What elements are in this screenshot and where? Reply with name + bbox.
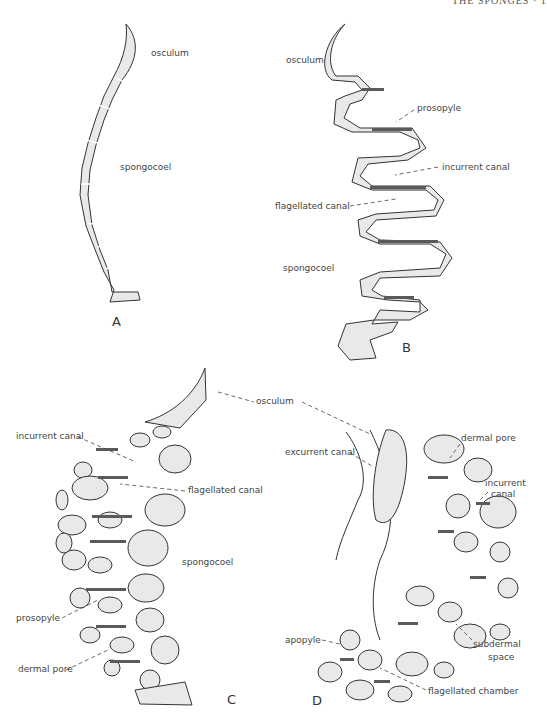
label-incurrent-canal-c: incurrent canal — [16, 431, 84, 441]
panel-a: osculum spongocoel A — [80, 24, 189, 329]
label-spongocoel-b: spongocoel — [283, 263, 334, 273]
label-subdermal-space-d-line2: space — [488, 652, 515, 662]
label-prosopyle-b: prosopyle — [417, 103, 461, 113]
chamber-walls-c — [56, 426, 192, 705]
panel-letter-a: A — [112, 314, 121, 329]
label-flagellated-chamber-d: flagellated chamber — [428, 686, 519, 696]
central-lobe-d — [373, 430, 406, 523]
label-osculum-a: osculum — [151, 48, 189, 58]
panel-b: osculum prosopyle incurrent canal flagel… — [275, 24, 510, 360]
panel-c: incurrent canal flagellated canal spongo… — [16, 368, 263, 707]
label-prosopyle-c: prosopyle — [16, 613, 60, 623]
label-flagellated-canal-b: flagellated canal — [275, 201, 350, 211]
label-incurrent-canal-d-line1: incurrent — [485, 478, 526, 488]
panel-letter-b: B — [402, 340, 411, 355]
label-subdermal-space-d-line1: subdermal — [473, 639, 521, 649]
label-osculum-d: osculum — [256, 396, 294, 406]
label-incurrent-canal-d-line2: canal — [491, 489, 515, 499]
label-spongocoel-a: spongocoel — [120, 162, 171, 172]
label-spongocoel-c: spongocoel — [182, 557, 233, 567]
label-dermal-pore-c: dermal pore — [18, 664, 73, 674]
panel-letter-c: C — [227, 692, 236, 707]
label-dermal-pore-d: dermal pore — [461, 433, 516, 443]
panel-letter-d: D — [312, 693, 322, 708]
label-excurrent-canal-d: excurrent canal — [285, 447, 355, 457]
label-incurrent-canal-b: incurrent canal — [442, 162, 510, 172]
label-apopyle-d: apopyle — [285, 635, 321, 645]
syconoid-wall — [325, 24, 452, 360]
label-flagellated-canal-c: flagellated canal — [188, 485, 263, 495]
panel-d: excurrent canal dermal pore incurrent ca… — [285, 430, 526, 708]
osculum-lip-c — [145, 368, 206, 428]
label-osculum-b: osculum — [286, 55, 324, 65]
